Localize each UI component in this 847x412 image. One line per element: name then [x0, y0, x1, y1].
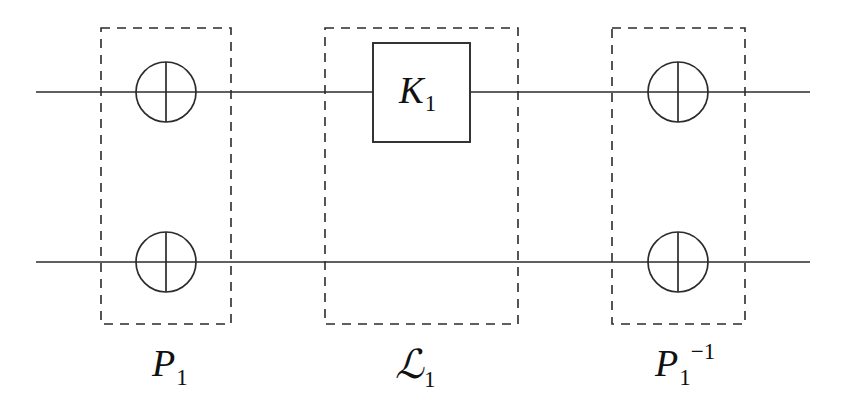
- gate-circle-top-left[interactable]: [136, 62, 196, 122]
- circuit-canvas: [0, 0, 847, 412]
- quantum-circuit-figure: K1 P1 ℒ1 P1−1: [0, 0, 847, 412]
- box-gate-layer: [373, 43, 470, 142]
- gate-box-k1[interactable]: [373, 43, 470, 142]
- gate-circle-bottom-left[interactable]: [136, 232, 196, 292]
- gate-circle-bottom-right[interactable]: [648, 232, 708, 292]
- gate-circle-top-right[interactable]: [648, 62, 708, 122]
